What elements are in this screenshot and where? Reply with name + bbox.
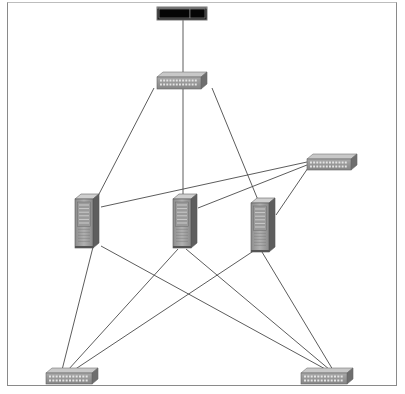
network-link <box>62 247 93 370</box>
server-2-server-icon[interactable] <box>173 194 197 248</box>
network-link <box>101 162 307 207</box>
switch-bottom-right-switch-icon[interactable] <box>301 368 353 384</box>
server-1-server-icon[interactable] <box>75 194 99 248</box>
network-link <box>186 249 330 370</box>
network-link <box>98 88 154 196</box>
side-switch-switch-icon[interactable] <box>307 154 357 170</box>
server-3-server-icon[interactable] <box>251 198 275 252</box>
core-switch-switch-icon[interactable] <box>157 72 207 89</box>
network-diagram <box>0 0 405 394</box>
network-link <box>101 246 327 370</box>
network-link <box>74 250 255 370</box>
network-link <box>68 249 178 370</box>
network-link <box>262 252 333 370</box>
top-rack-rack-unit-icon[interactable] <box>157 7 207 20</box>
switch-bottom-left-switch-icon[interactable] <box>46 368 98 384</box>
network-nodes <box>46 7 357 384</box>
network-link <box>212 88 258 200</box>
